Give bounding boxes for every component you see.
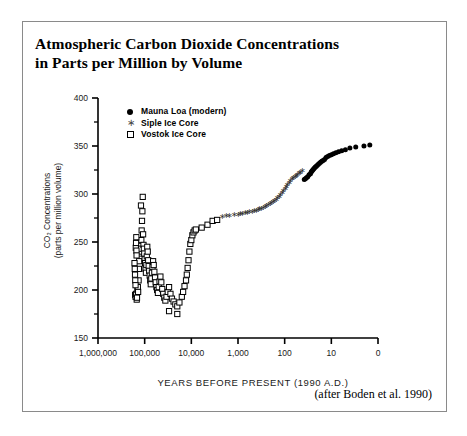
- x-axis-tick-label: 0: [376, 348, 381, 358]
- legend-item-label: Mauna Loa (modern): [141, 106, 226, 118]
- asterisk-icon: ∗: [127, 120, 141, 126]
- y-axis-tick-label: 200: [60, 285, 88, 295]
- x-axis-tick-label: 10,000: [178, 348, 204, 358]
- x-axis-tick-label: 10: [327, 348, 336, 358]
- legend-item: Vostok Ice Core: [127, 129, 226, 141]
- svg-text:∗: ∗: [299, 166, 306, 175]
- legend-item: ∗Siple Ice Core: [127, 118, 226, 130]
- y-axis-tick-label: 350: [60, 141, 88, 151]
- x-axis-ticks: [98, 338, 378, 344]
- series-vostok-ice-core: [132, 194, 220, 316]
- legend-marker-glyph: [127, 109, 133, 115]
- y-axis-title-line-1: CO₂ Concentrations: [42, 136, 53, 286]
- y-axis-tick-label: 300: [60, 189, 88, 199]
- chart-plot-area: ∗∗∗∗∗∗∗∗∗∗∗∗∗∗∗∗∗∗∗∗∗∗∗∗∗∗∗∗∗∗∗∗∗∗∗∗∗∗∗∗…: [23, 22, 448, 413]
- legend-item: Mauna Loa (modern): [127, 106, 226, 118]
- legend-marker-glyph: ∗: [127, 120, 135, 126]
- y-axis-tick-label: 400: [60, 93, 88, 103]
- filled-circle-icon: [127, 109, 141, 115]
- legend-item-label: Siple Ice Core: [141, 118, 199, 130]
- x-axis-tick-label: 1,000: [227, 348, 248, 358]
- x-axis-tick-label: 100,000: [129, 348, 160, 358]
- series-mauna-loa: [302, 143, 373, 183]
- chart-legend: Mauna Loa (modern)∗Siple Ice CoreVostok …: [127, 106, 226, 141]
- series-siple-ice-core: ∗∗∗∗∗∗∗∗∗∗∗∗∗∗∗∗∗∗∗∗∗∗∗∗∗∗∗∗∗∗∗∗∗∗∗∗∗∗∗∗…: [219, 166, 306, 221]
- x-axis-tick-label: 100: [278, 348, 292, 358]
- figure-frame: Atmospheric Carbon Dioxide Concentration…: [22, 21, 447, 412]
- y-axis-tick-label: 250: [60, 237, 88, 247]
- y-axis-title: CO₂ Concentrations (parts per million vo…: [42, 136, 63, 286]
- y-axis-title-line-2: (parts per million volume): [52, 136, 63, 286]
- legend-marker-glyph: [127, 131, 134, 138]
- source-credit: (after Boden et al. 1990): [314, 387, 432, 402]
- x-axis-tick-label: 1,000,000: [79, 348, 117, 358]
- y-axis-ticks: [92, 98, 98, 338]
- open-square-icon: [127, 131, 141, 138]
- legend-item-label: Vostok Ice Core: [141, 129, 206, 141]
- y-axis-tick-label: 150: [60, 333, 88, 343]
